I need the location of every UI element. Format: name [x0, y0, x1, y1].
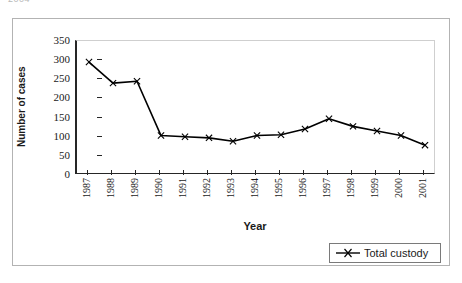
y-tick-label: 0 [30, 169, 70, 179]
x-tick-mark [87, 170, 88, 175]
y-tick-label: 200 [30, 92, 70, 102]
x-tick-label: 1999 [369, 178, 380, 198]
y-tick-label: 50 [30, 150, 70, 160]
y-tick-label: 300 [30, 54, 70, 64]
legend: Total custody [329, 243, 441, 263]
x-tick-mark [231, 170, 232, 175]
line-series-svg [77, 41, 437, 175]
x-tick-label: 1991 [177, 178, 188, 198]
x-tick-label: 1998 [345, 178, 356, 198]
x-tick-label: 1992 [201, 178, 212, 198]
x-tick-mark [255, 170, 256, 175]
x-tick-label: 1989 [129, 178, 140, 198]
y-axis-tick-labels: 050100150200250300350 [26, 0, 70, 283]
x-tick-mark [351, 170, 352, 175]
x-tick-label: 1990 [153, 178, 164, 198]
y-tick-label: 350 [30, 35, 70, 45]
x-tick-label: 2001 [417, 178, 428, 198]
x-marker-icon [335, 247, 361, 259]
x-tick-label: 1993 [225, 178, 236, 198]
x-tick-mark [279, 170, 280, 175]
data-point-marker [86, 59, 92, 65]
x-tick-label: 1988 [105, 178, 116, 198]
x-tick-label: 1997 [321, 178, 332, 198]
x-axis-title: Year [75, 220, 435, 232]
x-tick-label: 1994 [249, 178, 260, 198]
legend-label: Total custody [364, 247, 428, 259]
x-tick-label: 2000 [393, 178, 404, 198]
x-tick-mark [183, 170, 184, 175]
x-tick-mark [303, 170, 304, 175]
y-tick-label: 150 [30, 112, 70, 122]
x-tick-mark [111, 170, 112, 175]
x-tick-label: 1995 [273, 178, 284, 198]
data-point-marker [422, 142, 428, 148]
x-tick-label: 1996 [297, 178, 308, 198]
x-tick-mark [159, 170, 160, 175]
x-tick-label: 1987 [81, 178, 92, 198]
x-tick-mark [399, 170, 400, 175]
x-tick-mark [375, 170, 376, 175]
x-axis-tick-labels: 1987198819891990199119921993199419951996… [75, 176, 435, 216]
x-tick-mark [135, 170, 136, 175]
x-tick-mark [423, 170, 424, 175]
y-tick-label: 100 [30, 131, 70, 141]
y-tick-label: 250 [30, 73, 70, 83]
plot-area [75, 40, 435, 174]
x-tick-mark [327, 170, 328, 175]
x-tick-mark [207, 170, 208, 175]
